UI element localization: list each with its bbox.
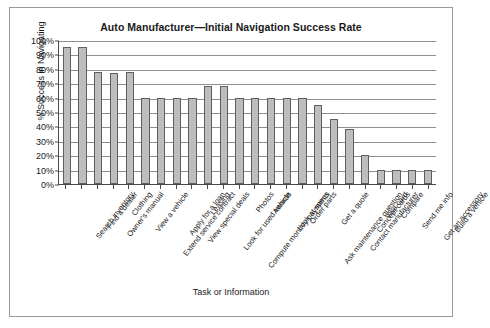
y-tick-label: 60% bbox=[36, 94, 54, 104]
x-tick-slot bbox=[153, 185, 169, 189]
bar-slot bbox=[404, 41, 420, 184]
x-tick-slot bbox=[373, 185, 389, 189]
bar bbox=[78, 47, 86, 184]
bar bbox=[283, 98, 291, 184]
bar bbox=[267, 98, 275, 184]
bar-slot bbox=[232, 41, 248, 184]
bar-slot bbox=[216, 41, 232, 184]
y-tick-label: 90% bbox=[36, 50, 54, 60]
x-tick-mark bbox=[207, 185, 208, 189]
x-axis-ticks bbox=[58, 185, 436, 189]
x-tick-mark bbox=[270, 185, 271, 189]
bar bbox=[141, 98, 149, 184]
bar-slot bbox=[420, 41, 436, 184]
x-tick-mark bbox=[333, 185, 334, 189]
x-tick-mark bbox=[239, 185, 240, 189]
bar-slot bbox=[310, 41, 326, 184]
x-tick-mark bbox=[396, 185, 397, 189]
x-tick-mark bbox=[365, 185, 366, 189]
y-tick-label: 20% bbox=[36, 151, 54, 161]
bar bbox=[345, 129, 353, 184]
x-tick-slot bbox=[105, 185, 121, 189]
bar-series bbox=[59, 41, 436, 184]
x-tick-mark bbox=[254, 185, 255, 189]
bar bbox=[330, 119, 338, 184]
x-tick-slot bbox=[231, 185, 247, 189]
x-tick-slot bbox=[168, 185, 184, 189]
x-tick-slot bbox=[294, 185, 310, 189]
y-tick-label: 10% bbox=[36, 166, 54, 176]
x-tick-slot bbox=[263, 185, 279, 189]
x-tick-mark bbox=[160, 185, 161, 189]
x-tick-mark bbox=[349, 185, 350, 189]
bar-slot bbox=[247, 41, 263, 184]
bar-slot bbox=[389, 41, 405, 184]
bar bbox=[424, 170, 432, 184]
bar bbox=[220, 86, 228, 184]
bar bbox=[173, 98, 181, 184]
bar-slot bbox=[185, 41, 201, 184]
x-tick-slot bbox=[310, 185, 326, 189]
plot-area: 100%90%80%70%60%50%40%30%20%10%0% bbox=[58, 41, 436, 185]
x-tick-slot bbox=[420, 185, 436, 189]
chart-figure: Auto Manufacturer—Initial Navigation Suc… bbox=[9, 7, 453, 317]
chart-title: Auto Manufacturer—Initial Navigation Suc… bbox=[10, 21, 452, 33]
bar bbox=[314, 105, 322, 184]
x-tick-slot bbox=[342, 185, 358, 189]
bar-slot bbox=[279, 41, 295, 184]
bar bbox=[235, 98, 243, 184]
x-tick-slot bbox=[90, 185, 106, 189]
x-axis-category-labels: Search inventoryFind a dealerOwner's man… bbox=[58, 190, 436, 285]
x-tick-mark bbox=[176, 185, 177, 189]
y-tick-label: 0% bbox=[41, 180, 54, 190]
bar bbox=[126, 72, 134, 184]
x-tick-slot bbox=[137, 185, 153, 189]
bar-slot bbox=[169, 41, 185, 184]
bar-slot bbox=[153, 41, 169, 184]
y-tick-label: 80% bbox=[36, 65, 54, 75]
bar bbox=[361, 155, 369, 184]
bar-slot bbox=[122, 41, 138, 184]
y-tick-label: 100% bbox=[31, 36, 54, 46]
bar bbox=[204, 86, 212, 184]
x-tick-mark bbox=[65, 185, 66, 189]
bar-slot bbox=[200, 41, 216, 184]
y-tick-label: 70% bbox=[36, 79, 54, 89]
x-tick-mark bbox=[128, 185, 129, 189]
x-tick-mark bbox=[317, 185, 318, 189]
x-tick-slot bbox=[326, 185, 342, 189]
bar bbox=[392, 170, 400, 184]
bar-slot bbox=[75, 41, 91, 184]
x-tick-slot bbox=[121, 185, 137, 189]
x-tick-mark bbox=[191, 185, 192, 189]
x-tick-mark bbox=[412, 185, 413, 189]
bar bbox=[94, 72, 102, 184]
x-tick-mark bbox=[302, 185, 303, 189]
bar-slot bbox=[357, 41, 373, 184]
bar bbox=[251, 98, 259, 184]
bar-slot bbox=[263, 41, 279, 184]
x-tick-mark bbox=[428, 185, 429, 189]
bar-slot bbox=[373, 41, 389, 184]
x-tick-mark bbox=[81, 185, 82, 189]
bar bbox=[377, 170, 385, 184]
x-tick-slot bbox=[200, 185, 216, 189]
x-tick-slot bbox=[216, 185, 232, 189]
x-axis-label: Get a quote bbox=[339, 190, 371, 227]
x-tick-slot bbox=[58, 185, 74, 189]
y-tick-label: 30% bbox=[36, 137, 54, 147]
bar-slot bbox=[326, 41, 342, 184]
y-tick-label: 50% bbox=[36, 108, 54, 118]
x-tick-slot bbox=[279, 185, 295, 189]
bar bbox=[298, 98, 306, 184]
x-tick-slot bbox=[247, 185, 263, 189]
bar bbox=[188, 98, 196, 184]
bar bbox=[408, 170, 416, 184]
x-tick-mark bbox=[223, 185, 224, 189]
x-tick-mark bbox=[286, 185, 287, 189]
bar-slot bbox=[138, 41, 154, 184]
bar bbox=[110, 73, 118, 184]
bar-slot bbox=[295, 41, 311, 184]
bar bbox=[157, 98, 165, 184]
x-tick-mark bbox=[380, 185, 381, 189]
